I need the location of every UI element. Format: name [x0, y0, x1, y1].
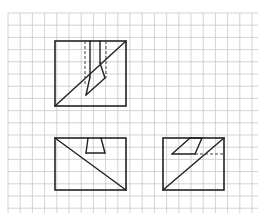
top-edge [100, 63, 105, 78]
top-view [55, 41, 126, 106]
front-view [55, 138, 126, 190]
front-edge [101, 138, 105, 153]
side-edge [163, 138, 224, 190]
side-edge [195, 138, 202, 154]
side-edge [172, 138, 190, 154]
grid-background [8, 13, 258, 213]
front-edge [55, 138, 126, 190]
projection-drawing [0, 0, 265, 219]
side-view [163, 138, 224, 190]
front-edge [86, 138, 88, 153]
